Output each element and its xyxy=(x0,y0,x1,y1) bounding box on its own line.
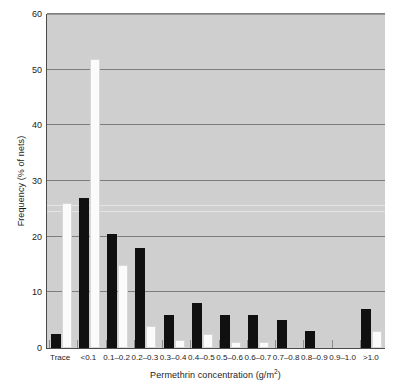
x-axis-line xyxy=(46,348,385,349)
permethrin-concentration-bar-chart: Frequency (% of nets) 0102030405060 Trac… xyxy=(0,0,399,391)
y-axis-tick-label: 50 xyxy=(18,66,42,75)
bar-black xyxy=(79,198,89,348)
x-axis-title-suffix: ) xyxy=(278,370,281,380)
bar-white xyxy=(90,59,100,348)
x-axis-tick-label: Trace xyxy=(50,352,70,364)
bar-black xyxy=(220,315,230,348)
bar-black xyxy=(277,320,287,348)
x-axis-title: Permethrin concentration (g/m2) xyxy=(46,370,385,380)
y-axis-tick-label: 30 xyxy=(18,177,42,186)
x-axis-tick-mark xyxy=(332,340,333,348)
x-axis-tick-labels: Trace<0.10.1–0.20.2–0.30.3–0.40.4–0.50.5… xyxy=(46,352,385,366)
x-axis-tick-label: 0.1–0.2 xyxy=(103,352,130,364)
bar-black xyxy=(135,248,145,348)
x-axis-tick-label: 0.7–0.8 xyxy=(273,352,300,364)
bar-white xyxy=(146,326,156,348)
plot-area xyxy=(46,14,385,348)
x-axis-tick-label: 0.4–0.5 xyxy=(188,352,215,364)
y-axis-tick-labels: 0102030405060 xyxy=(18,0,42,391)
y-axis-tick-label: 60 xyxy=(18,10,42,19)
y-axis-tick-label: 0 xyxy=(18,344,42,353)
bar-black xyxy=(51,334,61,348)
bar-white xyxy=(118,265,128,349)
bar-black xyxy=(305,331,315,348)
gridline xyxy=(47,13,385,14)
x-axis-tick-label: 0.2–0.3 xyxy=(132,352,159,364)
x-axis-tick-label: 0.6–0.7 xyxy=(245,352,272,364)
bar-black xyxy=(164,315,174,348)
bar-white xyxy=(203,334,213,348)
x-axis-tick-label: 0.5–0.6 xyxy=(216,352,243,364)
bar-black xyxy=(361,309,371,348)
bar-white xyxy=(372,331,382,348)
x-axis-title-text: Permethrin concentration (g/m xyxy=(150,370,274,380)
x-axis-tick-label: >1.0 xyxy=(363,352,379,364)
x-axis-tick-label: <0.1 xyxy=(80,352,96,364)
y-axis-tick-label: 40 xyxy=(18,121,42,130)
bar-white xyxy=(175,340,185,348)
x-axis-tick-label: 0.8–0.9 xyxy=(301,352,328,364)
y-axis-tick-label: 10 xyxy=(18,288,42,297)
x-axis-tick-label: 0.3–0.4 xyxy=(160,352,187,364)
bar-white xyxy=(62,203,72,348)
y-axis-tick-label: 20 xyxy=(18,233,42,242)
bar-black xyxy=(192,303,202,348)
y-axis-line xyxy=(46,14,47,349)
bar-black xyxy=(107,234,117,348)
x-axis-tick-label: 0.9–1.0 xyxy=(329,352,356,364)
bar-black xyxy=(248,315,258,348)
